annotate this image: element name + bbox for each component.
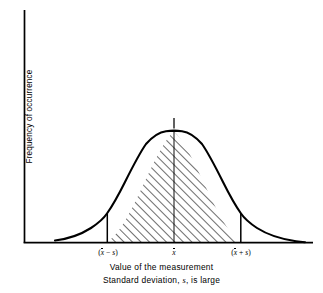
- figure-note: Standard deviation, s, is large: [0, 275, 323, 285]
- tick-left-xbar: x: [101, 248, 104, 257]
- x-tick-label-mean-plus-sigma: (x + s): [219, 248, 263, 257]
- figure-note-suffix: , is large: [186, 275, 220, 285]
- x-axis-caption: Value of the measurement: [0, 262, 323, 272]
- tick-left-close: ): [115, 248, 118, 257]
- tick-right-close: ): [248, 248, 251, 257]
- x-tick-label-mean-minus-sigma: (x − s): [86, 248, 130, 257]
- tick-mid-xbar: x: [172, 248, 175, 257]
- tick-right-xbar: x: [234, 248, 237, 257]
- y-axis-label: Frequency of occurrence: [25, 42, 34, 192]
- figure-note-prefix: Standard deviation,: [103, 275, 183, 285]
- x-tick-label-mean: x: [159, 248, 189, 257]
